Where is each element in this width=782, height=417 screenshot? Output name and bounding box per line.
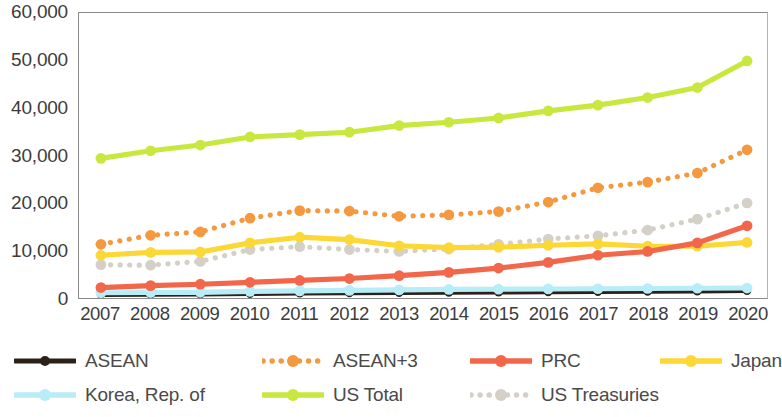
data-point-marker (394, 285, 405, 296)
data-point-marker (543, 240, 554, 251)
legend-item-asean[interactable]: ASEAN (14, 346, 148, 376)
y-axis-tick-label: 0 (58, 288, 68, 310)
data-point-marker (145, 260, 156, 271)
series-us-total (96, 56, 753, 164)
data-point-marker (593, 250, 604, 261)
data-point-marker (195, 279, 206, 290)
data-point-marker (543, 197, 554, 208)
data-point-marker (443, 210, 454, 221)
data-point-marker (742, 56, 753, 67)
series-japan (96, 232, 753, 261)
x-axis-tick-label: 2020 (728, 303, 768, 325)
data-point-marker (493, 113, 504, 124)
legend-swatch-korea-rep-of (14, 384, 76, 406)
data-point-marker (96, 282, 107, 293)
data-point-marker (294, 275, 305, 286)
x-axis-tick-label: 2010 (230, 303, 270, 325)
data-point-marker (543, 284, 554, 295)
legend-marker (495, 389, 507, 401)
data-point-marker (543, 257, 554, 268)
data-point-marker (145, 145, 156, 156)
data-point-marker (195, 140, 206, 151)
data-point-marker (195, 247, 206, 258)
legend-item-prc[interactable]: PRC (470, 346, 581, 376)
legend-item-label: US Treasuries (541, 384, 659, 406)
data-point-marker (96, 259, 107, 270)
data-point-marker (593, 182, 604, 193)
x-axis-tick-label: 2016 (529, 303, 569, 325)
legend-marker (495, 355, 507, 367)
data-point-marker (394, 211, 405, 222)
data-point-marker (742, 144, 753, 155)
data-point-marker (245, 238, 256, 249)
data-point-marker (742, 237, 753, 248)
data-point-marker (344, 273, 355, 284)
legend-swatch-asean (14, 350, 76, 372)
data-point-marker (642, 177, 653, 188)
data-point-marker (344, 206, 355, 217)
legend-marker (39, 389, 51, 401)
legend-swatch-asean-3 (262, 350, 324, 372)
legend-item-us-total[interactable]: US Total (262, 380, 403, 410)
data-point-marker (294, 232, 305, 243)
plot-area (78, 12, 768, 299)
data-point-marker (96, 239, 107, 250)
data-point-marker (195, 227, 206, 238)
y-axis-tick-label: 50,000 (11, 49, 68, 71)
legend-item-label: ASEAN+3 (333, 350, 418, 372)
data-point-marker (593, 238, 604, 249)
x-axis-tick-label: 2011 (280, 303, 318, 325)
series-layer (79, 13, 767, 298)
data-point-marker (96, 153, 107, 164)
data-point-marker (593, 100, 604, 111)
data-point-marker (145, 247, 156, 258)
data-point-marker (394, 120, 405, 131)
data-point-marker (195, 256, 206, 267)
legend-item-us-treasuries[interactable]: US Treasuries (470, 380, 659, 410)
x-axis-tick-label: 2009 (180, 303, 220, 325)
legend-item-japan[interactable]: Japan (660, 346, 782, 376)
data-point-marker (245, 213, 256, 224)
x-axis-tick-label: 2007 (80, 303, 120, 325)
x-axis-tick-label: 2008 (130, 303, 170, 325)
data-point-marker (493, 284, 504, 295)
x-axis-tick-label: 2018 (629, 303, 669, 325)
legend-item-label: Japan (731, 350, 782, 372)
x-axis-tick-label: 2014 (429, 303, 469, 325)
y-axis-tick-label: 60,000 (11, 1, 68, 23)
y-axis-tick-label: 10,000 (11, 240, 68, 262)
legend-item-asean-3[interactable]: ASEAN+3 (262, 346, 418, 376)
y-axis: 010,00020,00030,00040,00050,00060,000 (0, 0, 74, 299)
legend-item-korea-rep-of[interactable]: Korea, Rep. of (14, 380, 205, 410)
x-axis: 2007200820092010201120122013201420152016… (78, 303, 768, 331)
x-axis-tick-label: 2012 (329, 303, 369, 325)
data-point-marker (344, 234, 355, 245)
data-point-marker (692, 82, 703, 93)
data-point-marker (642, 283, 653, 294)
x-axis-tick-label: 2015 (479, 303, 519, 325)
data-point-marker (394, 240, 405, 251)
legend-swatch-us-total (262, 384, 324, 406)
data-point-marker (344, 285, 355, 296)
data-point-marker (593, 283, 604, 294)
data-point-marker (344, 127, 355, 138)
legend-item-label: PRC (541, 350, 581, 372)
y-axis-tick-label: 20,000 (11, 192, 68, 214)
data-point-marker (245, 132, 256, 143)
data-point-marker (394, 270, 405, 281)
data-point-marker (294, 205, 305, 216)
data-point-marker (742, 198, 753, 209)
data-point-marker (742, 220, 753, 231)
data-point-marker (692, 283, 703, 294)
legend-swatch-us-treasuries (470, 384, 532, 406)
series-asean-3 (96, 144, 753, 249)
legend-item-label: Korea, Rep. of (85, 384, 205, 406)
data-point-marker (543, 105, 554, 116)
legend-marker (40, 356, 50, 366)
x-axis-tick-label: 2013 (379, 303, 419, 325)
data-point-marker (642, 225, 653, 236)
data-point-marker (642, 92, 653, 103)
data-point-marker (493, 206, 504, 217)
data-point-marker (493, 242, 504, 253)
